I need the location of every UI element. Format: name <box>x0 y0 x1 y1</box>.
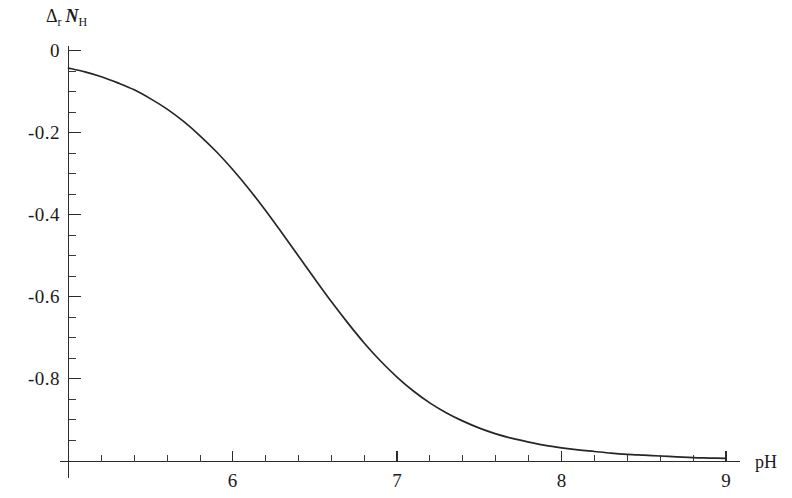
data-series-line <box>69 68 727 458</box>
x-tick-label: 6 <box>228 470 238 491</box>
y-tick-label: -0.6 <box>28 286 60 307</box>
y-tick-label: -0.4 <box>28 204 60 225</box>
y-tick-label: -0.2 <box>28 122 60 143</box>
x-tick-label: 9 <box>721 470 731 491</box>
y-axis: 0 -0.2 -0.4 -0.6 -0.8 <box>28 40 81 478</box>
y-axis-title-symbol-subscript: H <box>79 15 88 29</box>
y-axis-title: ΔrNH <box>46 6 88 29</box>
x-tick-label: 7 <box>392 470 402 491</box>
x-tick-label: 8 <box>557 470 567 491</box>
x-axis-title: pH <box>755 452 777 472</box>
chart-figure: ΔrNH pH <box>0 0 792 498</box>
y-tick-label: 0 <box>50 40 60 61</box>
y-axis-minor-ticks <box>69 71 76 440</box>
y-axis-title-delta-subscript: r <box>58 15 62 29</box>
y-axis-title-delta: Δ <box>46 6 58 26</box>
y-axis-tick-labels: 0 -0.2 -0.4 -0.6 -0.8 <box>28 40 60 389</box>
y-axis-major-ticks <box>69 51 81 379</box>
chart-canvas: ΔrNH pH <box>0 0 792 498</box>
y-tick-label: -0.8 <box>28 368 60 389</box>
x-axis: 6 7 8 9 <box>60 451 740 492</box>
y-axis-title-symbol: N <box>65 6 80 26</box>
x-axis-tick-labels: 6 7 8 9 <box>228 470 731 491</box>
